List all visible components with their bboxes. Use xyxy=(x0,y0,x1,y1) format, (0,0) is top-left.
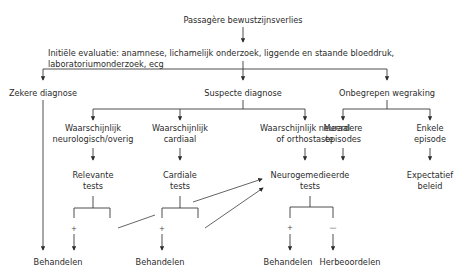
initial-eval-line2: laboratoriumonderzoek, ecg xyxy=(48,59,164,69)
unexplained-syncope-label: Onbegrepen wegraking xyxy=(339,88,435,98)
neuro-branch-line1: Waarschijnlijk xyxy=(65,123,121,133)
neuro-branch-line2: neurologisch/overig xyxy=(53,134,134,144)
neuro-tests-line2: tests xyxy=(300,181,320,191)
cardiac-tests-line1: Cardiale xyxy=(163,170,197,180)
expectant-policy-line1: Expectatief xyxy=(407,170,455,180)
neuro-positive-sign: + xyxy=(287,224,293,232)
neuro-tests-line1: Neurogemedieerde xyxy=(271,170,350,180)
syncope-flowchart: Passagère bewustzijnsverlies Initiële ev… xyxy=(0,0,464,276)
relevant-tests-line2: tests xyxy=(83,181,103,191)
cardiac-tests-line2: tests xyxy=(170,181,190,191)
relevant-positive-sign: + xyxy=(71,225,77,233)
expectant-policy-line2: beleid xyxy=(417,181,442,191)
cardiac-positive-sign: + xyxy=(159,225,165,233)
initial-eval-line1: Initiële evaluatie: anamnese, lichamelij… xyxy=(48,48,394,58)
outcome-treat-cardiac: Behandelen xyxy=(136,257,185,267)
relevant-tests-line1: Relevante xyxy=(73,170,114,180)
neuro-negative-sign: — xyxy=(330,224,337,232)
link-relevant-to-neuro-tests xyxy=(193,179,262,202)
root-node-label: Passagère bewustzijnsverlies xyxy=(183,15,302,25)
single-episode-line2: episode xyxy=(414,134,446,144)
outcome-treat-neuro: Behandelen xyxy=(264,257,313,267)
cardiac-branch-line1: Waarschijnlijk xyxy=(152,123,208,133)
outcome-reassess: Herbeoordelen xyxy=(320,257,381,267)
certain-diagnosis-label: Zekere diagnose xyxy=(9,88,77,98)
link-cardiac-negative-to-neuro-tests xyxy=(205,188,263,228)
outcome-treat-certain: Behandelen xyxy=(34,257,83,267)
multiple-episodes-line1: Meerdere xyxy=(324,123,363,133)
link-relevant-negative xyxy=(118,215,155,228)
single-episode-line1: Enkele xyxy=(416,123,443,133)
multiple-episodes-line2: episodes xyxy=(325,134,361,144)
cardiac-branch-line2: cardiaal xyxy=(164,134,197,144)
suspect-diagnosis-label: Suspecte diagnose xyxy=(204,88,281,98)
